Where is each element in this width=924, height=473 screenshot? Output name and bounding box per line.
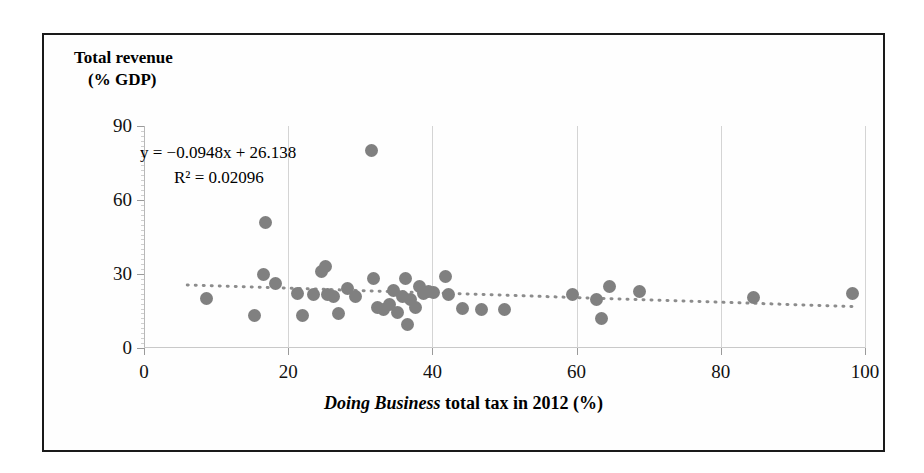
r-squared-value: R² = 0.02096 (140, 166, 296, 191)
x-tick-20 (288, 348, 289, 355)
y-tick-label-30: 30 (113, 263, 132, 285)
x-tick-label-0: 0 (139, 361, 149, 383)
scatter-point (259, 216, 272, 229)
scatter-point (248, 309, 261, 322)
y-axis-title-line2: (% GDP) (74, 69, 173, 91)
figure-frame: Total revenue (% GDP) 0306090 0204060801… (42, 33, 885, 452)
gridline-x-100 (865, 126, 866, 348)
y-tick-label-60: 60 (113, 189, 132, 211)
x-tick-60 (577, 348, 578, 355)
x-tick-label-20: 20 (279, 361, 298, 383)
scatter-point (391, 306, 404, 319)
y-axis-title-line1: Total revenue (74, 48, 173, 67)
x-axis-title-rest: total tax in 2012 (%) (441, 393, 603, 413)
x-axis-title-italic: Doing Business (324, 393, 441, 413)
x-tick-80 (721, 348, 722, 355)
scatter-point (365, 144, 378, 157)
y-axis-title: Total revenue (% GDP) (74, 47, 173, 92)
x-tick-label-40: 40 (423, 361, 442, 383)
y-tick-0 (137, 348, 144, 349)
y-tick-30 (137, 274, 144, 275)
scatter-point (747, 291, 760, 304)
scatter-point (257, 268, 270, 281)
scatter-point (633, 285, 646, 298)
x-tick-label-80: 80 (711, 361, 730, 383)
y-tick-60 (137, 200, 144, 201)
x-tick-100 (865, 348, 866, 355)
x-axis-title: Doing Business total tax in 2012 (%) (44, 393, 883, 414)
x-tick-label-100: 100 (851, 361, 880, 383)
x-tick-label-60: 60 (567, 361, 586, 383)
scatter-point (439, 270, 452, 283)
scatter-point (327, 290, 340, 303)
scatter-point (409, 301, 422, 314)
x-tick-0 (144, 348, 145, 355)
regression-equation: y = −0.0948x + 26.138 (140, 143, 296, 162)
y-tick-90 (137, 126, 144, 127)
y-tick-label-0: 0 (123, 337, 133, 359)
regression-annotation: y = −0.0948x + 26.138 R² = 0.02096 (140, 141, 296, 190)
y-tick-label-90: 90 (113, 115, 132, 137)
x-tick-40 (432, 348, 433, 355)
scatter-point (399, 272, 412, 285)
scatter-point (401, 318, 414, 331)
